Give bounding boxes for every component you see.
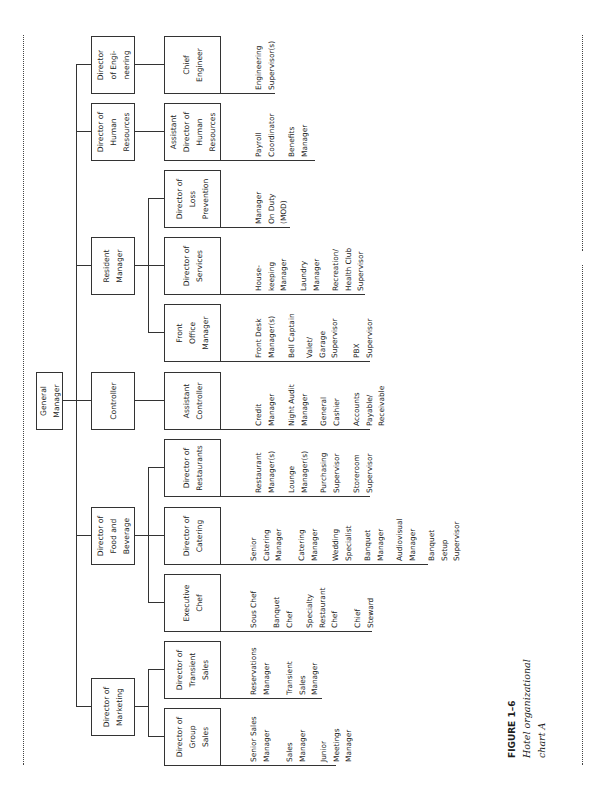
report-rail — [220, 227, 290, 228]
report-chief-steward: Chief Steward — [352, 598, 377, 628]
connector — [135, 706, 148, 707]
report-banquet-setup-supervisor: Banquet Setup Supervisor — [426, 522, 464, 562]
report-rail — [220, 698, 322, 699]
report-senior-sales-manager: Senior Sales Manager — [248, 716, 273, 762]
box-director-catering: Director of Catering — [164, 507, 221, 565]
report-night-audit-manager: Night Audit Manager — [286, 384, 311, 426]
report-engineering-supervisors: Engineering Supervisor(s) — [253, 41, 278, 90]
report-rail — [220, 429, 370, 430]
connector — [148, 199, 149, 333]
connector — [135, 535, 148, 536]
top-dotted-rule — [23, 35, 24, 765]
report-recreation-health-club-supervisor: Recreation/ Health Club Supervisor — [330, 248, 368, 291]
figure-title: Hotel organizational chart A — [519, 618, 549, 758]
box-director-transient-sales: Director of Transient Sales — [164, 641, 221, 699]
report-lounge-managers: Lounge Manager(s) — [286, 451, 311, 493]
connector — [76, 131, 91, 132]
box-director-restaurants: Director of Restaurants — [164, 439, 221, 497]
connector — [76, 400, 91, 401]
report-specialty-restaurant-chef: Specialty Restaurant Chef — [304, 588, 342, 628]
box-assistant-director-hr: Assistant Director of Human Resources — [164, 103, 221, 161]
box-director-marketing: Director of Marketing — [91, 678, 135, 736]
report-wedding-specialist: Wedding Specialist — [330, 526, 355, 561]
report-banquet-manager: Banquet Manager — [362, 529, 387, 561]
box-director-engineering: Director of Engi- neering — [91, 36, 135, 94]
report-bell-captain: Bell Captain — [286, 313, 299, 358]
box-director-human-resources: Director of Human Resources — [91, 103, 135, 161]
org-chart: General Manager Director of Marketing Di… — [0, 0, 596, 796]
report-pbx-supervisor: PBX Supervisor — [351, 319, 376, 359]
report-general-cashier: General Cashier — [318, 397, 343, 426]
report-valet-garage-supervisor: Valet/ Garage Supervisor — [304, 319, 342, 359]
report-banquet-chef: Banquet Chef — [271, 597, 296, 628]
report-accounts-payable-receivable: Accounts Payable/ Receivable — [351, 386, 389, 426]
report-benefits-manager: Benefits Manager — [286, 125, 311, 157]
report-payroll-coordinator: Payroll Coordinator — [253, 113, 278, 157]
box-director-services: Director of Services — [164, 237, 221, 295]
connector — [76, 535, 91, 536]
report-rail — [220, 765, 336, 766]
box-resident-manager: Resident Manager — [91, 237, 135, 295]
box-director-loss-prevention: Director of Loss Prevention — [164, 170, 221, 228]
connector — [135, 265, 148, 266]
box-controller: Controller — [91, 372, 135, 430]
report-purchasing-supervisor: Purchasing Supervisor — [318, 453, 343, 493]
report-senior-catering-manager: Senior Catering Manager — [248, 529, 286, 561]
connector — [76, 64, 91, 65]
box-general-manager: General Manager — [36, 372, 63, 430]
report-rail — [220, 93, 275, 94]
report-rail — [220, 294, 365, 295]
connector — [148, 467, 164, 468]
connector — [148, 332, 164, 333]
level1-trunk — [76, 65, 77, 707]
connector — [148, 736, 164, 737]
report-manager-on-duty: Manager On Duty (MOD) — [253, 192, 291, 224]
report-restaurant-managers: Restaurant Manager(s) — [253, 451, 278, 493]
report-front-desk-managers: Front Desk Manager(s) — [253, 316, 278, 358]
box-executive-chef: Executive Chef — [164, 574, 221, 632]
box-assistant-controller: Assistant Controller — [164, 372, 221, 430]
figure-caption: FIGURE 1–6 Hotel organizational chart A — [505, 618, 549, 758]
report-transient-sales-manager: Transient Sales Manager — [284, 661, 322, 695]
report-sous-chef: Sous Chef — [248, 591, 261, 628]
report-audiovisual-manager: Audiovisual Manager — [394, 518, 419, 561]
report-rail — [220, 564, 428, 565]
connector — [62, 400, 76, 401]
report-reservations-manager: Reservations Manager — [248, 647, 273, 695]
connector — [135, 400, 164, 401]
connector — [148, 669, 164, 670]
connector — [76, 706, 91, 707]
report-housekeeping-manager: House- keeping Manager — [253, 259, 291, 291]
report-rail — [220, 361, 370, 362]
report-credit-manager: Credit Manager — [253, 394, 278, 426]
connector — [135, 64, 164, 65]
bottom-dotted-rule-right — [582, 35, 583, 251]
report-rail — [220, 631, 372, 632]
connector — [148, 198, 164, 199]
report-rail — [220, 496, 370, 497]
box-front-office-manager: Front Office Manager — [164, 304, 221, 362]
connector — [148, 265, 164, 266]
connector — [148, 602, 164, 603]
box-director-group-sales: Director of Group Sales — [164, 708, 221, 766]
connector — [148, 670, 149, 737]
report-junior-meetings-manager: Junior Meetings Manager — [318, 728, 356, 762]
connector — [135, 131, 164, 132]
report-rail — [220, 160, 315, 161]
box-director-food-beverage: Director of Food and Beverage — [91, 507, 135, 565]
box-chief-engineer: Chief Engineer — [164, 36, 221, 94]
report-catering-manager: Catering Manager — [296, 529, 321, 561]
connector — [76, 265, 91, 266]
bottom-dotted-rule — [582, 265, 583, 765]
figure-label: FIGURE 1–6 — [505, 618, 519, 758]
report-storeroom-supervisor: Storeroom Supervisor — [351, 454, 376, 494]
connector — [148, 535, 164, 536]
report-laundry-manager: Laundry Manager — [298, 259, 323, 291]
report-sales-manager: Sales Manager — [284, 730, 309, 762]
